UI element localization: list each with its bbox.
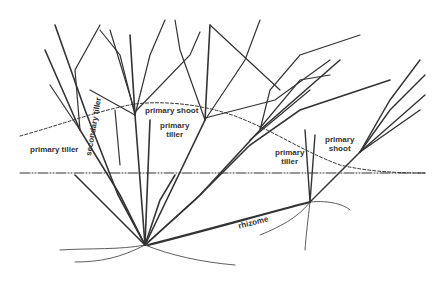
grass-diagram: primary shoot primary tiller secondary t… xyxy=(0,0,443,287)
label-primary-shoot-right: primary shoot xyxy=(325,135,354,153)
label-primary-tiller-center: primary tiller xyxy=(160,121,189,139)
plant-illustration xyxy=(0,0,443,287)
rhizome xyxy=(148,202,310,245)
label-primary-shoot: primary shoot xyxy=(145,106,198,115)
label-primary-tiller-right: primary tiller xyxy=(275,148,304,166)
label-primary-tiller-left: primary tiller xyxy=(30,145,78,154)
